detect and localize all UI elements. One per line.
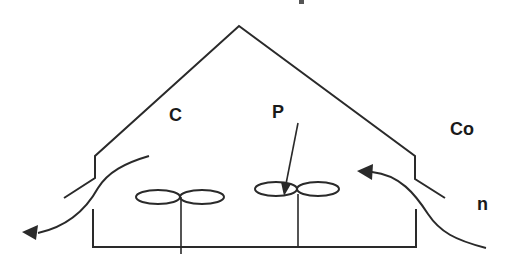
left-fan-icon (136, 190, 224, 254)
label-co: Co (450, 119, 474, 139)
title-fragment (299, 0, 304, 4)
pointer-arrow-icon (281, 123, 298, 196)
inflow-arrow-right-icon (357, 164, 486, 248)
roof-outline (64, 26, 445, 198)
label-c: C (169, 105, 182, 125)
diagram-svg: C P Co n (0, 0, 506, 272)
greenhouse-diagram: C P Co n (0, 0, 506, 272)
outflow-arrow-left-icon (22, 156, 149, 240)
label-p: P (272, 102, 284, 122)
label-n: n (477, 194, 488, 214)
walls-and-floor (93, 209, 416, 247)
right-fan-icon (255, 182, 339, 247)
